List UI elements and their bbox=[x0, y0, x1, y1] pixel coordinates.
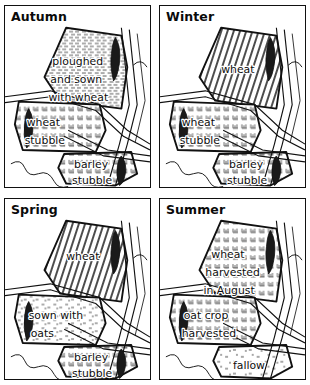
panel-title-autumn: Autumn bbox=[11, 9, 67, 24]
panel-title-winter: Winter bbox=[166, 9, 214, 24]
lower-field-label-winter: barley bbox=[229, 158, 264, 171]
map-autumn: ploughed and sown with wheat wheat stubb… bbox=[5, 6, 150, 187]
figure-sheet: Autumn bbox=[0, 0, 310, 385]
lower-field-label-winter-2: stubble bbox=[227, 174, 268, 187]
panel-title-spring: Spring bbox=[11, 202, 58, 217]
middle-field-label-spring: sown with bbox=[29, 309, 83, 322]
middle-field-label-winter-2: stubble bbox=[180, 134, 221, 147]
panel-autumn: Autumn bbox=[4, 5, 151, 188]
map-summer: wheat harvested in August oat crop harve… bbox=[160, 199, 305, 380]
lower-field-label-spring-2: stubble bbox=[72, 366, 113, 379]
middle-field-label-spring-2: oats bbox=[31, 327, 55, 340]
season-panel-grid: Autumn bbox=[0, 0, 310, 385]
middle-field-label-summer-2: harvested bbox=[182, 327, 237, 340]
upper-field-label-summer-3: in August bbox=[203, 283, 254, 296]
middle-field-label-autumn: wheat bbox=[27, 116, 60, 129]
lower-field-label-summer: fallow bbox=[233, 358, 265, 371]
panel-spring: Spring bbox=[4, 198, 151, 381]
map-winter: wheat wheat stubble barley stubble bbox=[160, 6, 305, 187]
lower-field-label-autumn: barley bbox=[74, 158, 109, 171]
upper-field-label-autumn-2: and sown bbox=[50, 73, 102, 86]
upper-field-label-winter: wheat bbox=[221, 63, 254, 76]
lower-field-label-autumn-2: stubble bbox=[72, 174, 113, 187]
upper-field-label-spring: wheat bbox=[66, 250, 99, 263]
upper-field-label-autumn: ploughed bbox=[52, 55, 103, 68]
panel-title-summer: Summer bbox=[166, 202, 225, 217]
upper-field-label-autumn-3: with wheat bbox=[48, 91, 108, 104]
map-spring: wheat sown with oats barley stubble bbox=[5, 199, 150, 380]
upper-field-label-summer: wheat bbox=[211, 248, 244, 261]
panel-winter: Winter bbox=[159, 5, 306, 188]
panel-summer: Summer bbox=[159, 198, 306, 381]
lower-field-label-spring: barley bbox=[74, 350, 109, 363]
upper-field-label-summer-2: harvested bbox=[205, 265, 260, 278]
middle-field-label-summer: oat crop bbox=[184, 309, 229, 322]
middle-field-label-autumn-2: stubble bbox=[25, 134, 66, 147]
middle-field-label-winter: wheat bbox=[182, 116, 215, 129]
